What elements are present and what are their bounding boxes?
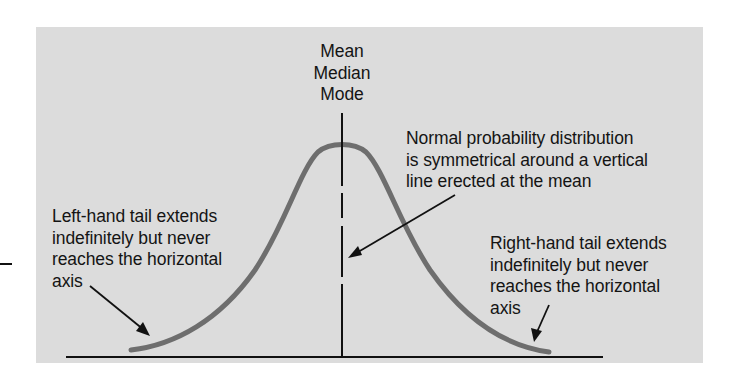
- center-labels: Mean Median Mode: [302, 41, 382, 106]
- left-tail-annotation: Left-hand tail extends indefinitely but …: [52, 206, 222, 292]
- symmetry-line-3: line erected at the mean: [406, 171, 648, 193]
- left-tail-arrow: [90, 286, 150, 336]
- symmetry-line-1: Normal probability distribution: [406, 128, 648, 150]
- left-tail-line-4: axis: [52, 271, 222, 293]
- right-tail-line-3: reaches the horizontal: [490, 276, 667, 298]
- right-tail-annotation: Right-hand tail extends indefinitely but…: [490, 233, 667, 319]
- label-mode: Mode: [302, 84, 382, 106]
- label-mean: Mean: [302, 41, 382, 63]
- left-tail-line-1: Left-hand tail extends: [52, 206, 222, 228]
- left-tail-line-2: indefinitely but never: [52, 228, 222, 250]
- left-tail-line-3: reaches the horizontal: [52, 249, 222, 271]
- right-tail-line-2: indefinitely but never: [490, 255, 667, 277]
- right-tail-line-4: axis: [490, 298, 667, 320]
- symmetry-line-2: is symmetrical around a vertical: [406, 150, 648, 172]
- right-tail-line-1: Right-hand tail extends: [490, 233, 667, 255]
- symmetry-annotation: Normal probability distribution is symme…: [406, 128, 648, 193]
- label-median: Median: [302, 63, 382, 85]
- symmetry-arrow: [348, 195, 455, 258]
